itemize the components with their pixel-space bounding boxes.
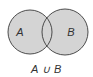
- set-b-label: B: [67, 26, 74, 38]
- diagram-caption: A ∪ B: [0, 63, 93, 76]
- set-a-label: A: [15, 26, 23, 38]
